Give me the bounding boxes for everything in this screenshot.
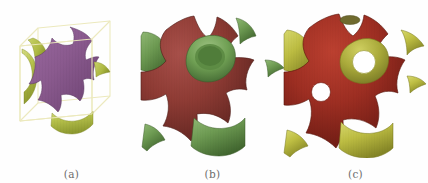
panel-c-illustration (283, 0, 428, 158)
neck-right-b (265, 60, 284, 77)
figure-container: (a) (0, 0, 428, 183)
panel-c-label: (c) (283, 169, 428, 180)
panel-a-illustration (0, 0, 143, 158)
far-tunnel-top-c (340, 16, 360, 25)
minimal-surface-c (284, 14, 426, 158)
neck-upper-right-c (401, 30, 424, 55)
panel-b-illustration (140, 0, 285, 158)
minimal-surface-a (22, 27, 110, 134)
surface-neck-right (94, 62, 110, 77)
neck-right-c (407, 76, 426, 93)
minimal-surface-b (141, 16, 284, 156)
panel-a: (a) (0, 0, 143, 183)
hole-upper-c (353, 51, 376, 74)
neck-lower-left-c (284, 130, 308, 157)
panel-c: (c) (283, 0, 428, 183)
neck-upper-right-b (236, 18, 256, 44)
panel-b-label: (b) (140, 169, 285, 180)
neck-lower-left-b (142, 124, 165, 151)
hole-center-left-c (312, 83, 331, 102)
panel-a-label: (a) (0, 169, 143, 180)
panel-b: (b) (140, 0, 285, 183)
